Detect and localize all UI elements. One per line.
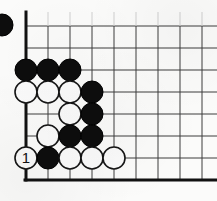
stone-black xyxy=(59,59,81,81)
white-stone-disc xyxy=(37,81,59,103)
black-stone-disc xyxy=(59,125,81,147)
black-stone-disc xyxy=(59,59,81,81)
stone-white xyxy=(81,147,103,169)
black-stone-disc xyxy=(81,125,103,147)
stone-white xyxy=(59,103,81,125)
stone-white-move-1: 1 xyxy=(15,147,37,169)
stone-white xyxy=(59,147,81,169)
stone-white xyxy=(37,125,59,147)
stone-black xyxy=(81,81,103,103)
stone-white xyxy=(37,81,59,103)
stone-white xyxy=(59,81,81,103)
white-stone-disc xyxy=(59,147,81,169)
stone-black xyxy=(37,59,59,81)
black-stone-disc xyxy=(81,81,103,103)
go-board-diagram: 1 xyxy=(0,0,217,201)
black-stone-disc xyxy=(15,59,37,81)
white-stone-disc xyxy=(59,103,81,125)
black-stone-disc xyxy=(81,103,103,125)
stone-white xyxy=(15,81,37,103)
stone-black xyxy=(15,59,37,81)
stone-white xyxy=(103,147,125,169)
stone-black xyxy=(81,103,103,125)
white-stone-disc xyxy=(81,147,103,169)
white-stone-disc xyxy=(59,81,81,103)
stone-black xyxy=(59,125,81,147)
black-stone-disc xyxy=(37,147,59,169)
white-stone-disc xyxy=(103,147,125,169)
stone-black xyxy=(81,125,103,147)
white-stone-disc xyxy=(15,81,37,103)
white-stone-disc xyxy=(37,125,59,147)
stone-black xyxy=(37,147,59,169)
go-board-canvas: 1 xyxy=(0,0,217,201)
black-stone-disc xyxy=(37,59,59,81)
move-number-label: 1 xyxy=(22,149,30,166)
